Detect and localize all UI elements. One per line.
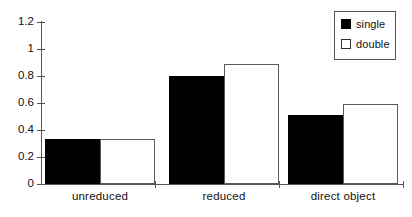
legend-label-double: double [356, 38, 390, 50]
bar-chart: 00.20.40.60.811.2 unreducedreduceddirect… [0, 0, 412, 217]
legend-label-single: single [356, 18, 385, 30]
legend-swatch-single-icon [341, 19, 351, 29]
bar-reduced-single [169, 76, 224, 184]
x-axis-category-label: reduced [164, 190, 284, 202]
bar-reduced-double [224, 64, 279, 184]
legend-item-double: double [341, 38, 390, 50]
legend-item-single: single [341, 18, 385, 30]
chart-legend: single double [334, 11, 396, 60]
bar-direct-object-double [343, 104, 398, 184]
x-axis-category-label: unreduced [40, 190, 160, 202]
legend-swatch-double-icon [341, 39, 351, 49]
x-axis-category-label: direct object [283, 190, 403, 202]
bar-direct-object-single [288, 115, 343, 184]
bar-unreduced-single [45, 139, 100, 184]
bar-unreduced-double [100, 139, 155, 184]
